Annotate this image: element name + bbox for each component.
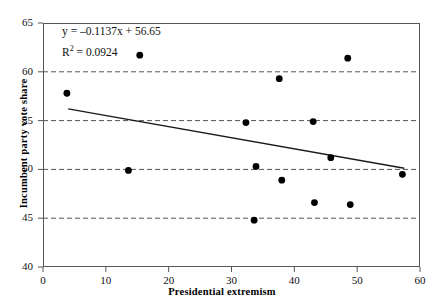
r-squared-value: = 0.0924 <box>74 46 118 58</box>
data-point <box>243 119 250 126</box>
y-tick-label-40: 40 <box>7 260 33 272</box>
r-squared-prefix: R <box>62 46 70 58</box>
trendline <box>68 109 404 168</box>
data-point <box>63 90 70 97</box>
data-point <box>347 201 354 208</box>
data-point <box>125 167 132 174</box>
x-tick-label-0: 0 <box>31 274 55 286</box>
data-point <box>253 163 260 170</box>
data-point <box>327 154 334 161</box>
regression-equation-label: y = –0.1137x + 56.65 <box>62 25 161 37</box>
gridlines-group <box>43 72 420 218</box>
scatter-chart: 404550556065 0102030405060 y = –0.1137x … <box>0 0 444 306</box>
x-tick-label-20: 20 <box>157 274 181 286</box>
data-point <box>276 75 283 82</box>
trendline-path <box>68 109 404 168</box>
y-tick-label-65: 65 <box>7 16 33 28</box>
data-point <box>399 171 406 178</box>
data-point <box>344 55 351 62</box>
x-tick-label-50: 50 <box>345 274 369 286</box>
y-axis-title: Incumbent party vote share <box>18 59 29 229</box>
axis-ticks-group <box>38 23 420 272</box>
r-squared-label: R2 = 0.0924 <box>62 44 118 58</box>
data-point <box>311 199 318 206</box>
data-point <box>278 177 285 184</box>
x-tick-label-40: 40 <box>282 274 306 286</box>
x-tick-label-60: 60 <box>408 274 432 286</box>
x-tick-label-10: 10 <box>94 274 118 286</box>
data-point <box>310 118 317 125</box>
x-tick-label-30: 30 <box>220 274 244 286</box>
data-point <box>251 217 258 224</box>
data-point <box>136 52 143 59</box>
x-axis-title: Presidential extremism <box>0 286 444 297</box>
